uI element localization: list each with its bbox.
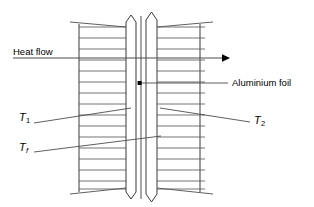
t1-symbol: T — [19, 111, 26, 123]
heat-flow-arrow-head — [222, 54, 230, 62]
left-insulation-block — [70, 22, 126, 194]
centre-foil-assembly — [126, 12, 157, 202]
tf-label: Tf — [19, 142, 28, 153]
aluminium-foil-dot-marker — [138, 81, 142, 85]
centre-strip-a-top-zigzag — [126, 15, 136, 27]
t1-subscript: 1 — [26, 116, 30, 125]
insulation-heat-flow-drawing — [0, 0, 314, 207]
tf-symbol: T — [19, 141, 26, 153]
t1-leader-line — [34, 108, 131, 123]
centre-strip-a-bottom-zigzag — [126, 188, 136, 199]
left-block-top-edge — [70, 22, 126, 27]
tf-subscript: f — [26, 146, 28, 155]
heat-flow-label: Heat flow — [13, 47, 53, 57]
tf-leader-line — [34, 136, 161, 152]
aluminium-foil-label: Aluminium foil — [232, 78, 291, 88]
diagram-canvas: Heat flow Aluminium foil T1 T2 Tf — [0, 0, 314, 207]
t2-subscript: 2 — [261, 119, 265, 128]
centre-strip-b-bottom-zigzag — [146, 188, 157, 202]
right-block-hatching — [157, 27, 205, 189]
centre-strip-b-top-zigzag — [146, 12, 157, 27]
t1-label: T1 — [19, 112, 30, 123]
left-block-hatching — [79, 27, 126, 189]
right-insulation-block — [157, 22, 213, 194]
right-block-top-edge — [157, 22, 213, 27]
t2-label: T2 — [254, 115, 265, 126]
t2-symbol: T — [254, 114, 261, 126]
